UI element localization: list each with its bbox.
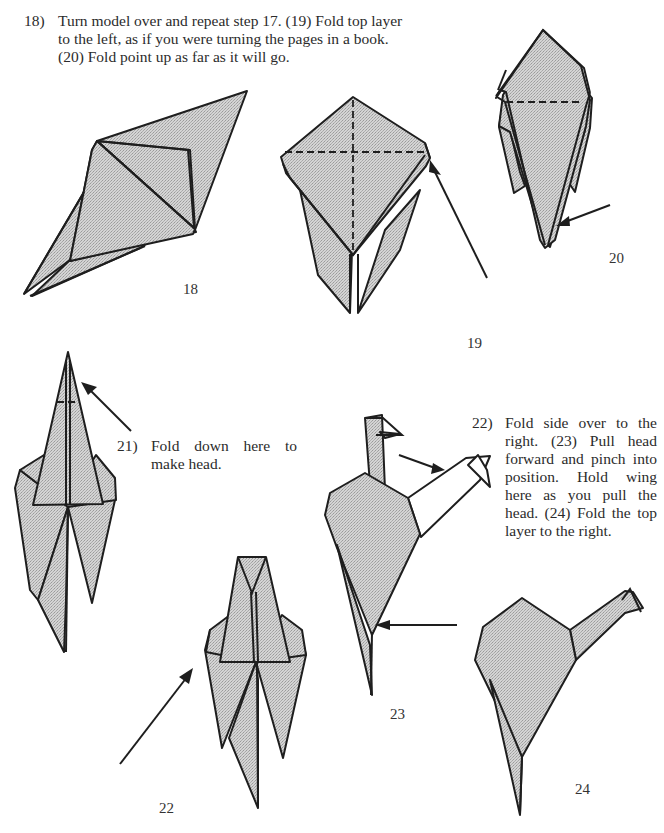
fold-arrow xyxy=(399,455,435,468)
arrow-icon xyxy=(179,668,193,684)
origami-diagrams xyxy=(0,0,664,833)
figure-20-diagram xyxy=(496,30,610,248)
figure-18-diagram xyxy=(24,91,247,296)
fold-arrow xyxy=(565,205,610,222)
figure-23-diagram xyxy=(325,415,490,695)
figure-21-diagram xyxy=(15,352,131,652)
arrow-icon xyxy=(81,382,97,395)
figure-24-diagram xyxy=(475,589,643,815)
figure-19-diagram xyxy=(281,97,487,313)
fold-arrow xyxy=(90,390,131,431)
arrow-icon xyxy=(431,463,445,474)
fold-arrow xyxy=(433,168,487,278)
figure-22-diagram xyxy=(120,557,306,808)
arrow-icon xyxy=(429,160,441,175)
origami-instruction-page: 18) Turn model over and repeat step 17. … xyxy=(0,0,664,833)
fold-arrow xyxy=(120,677,187,764)
